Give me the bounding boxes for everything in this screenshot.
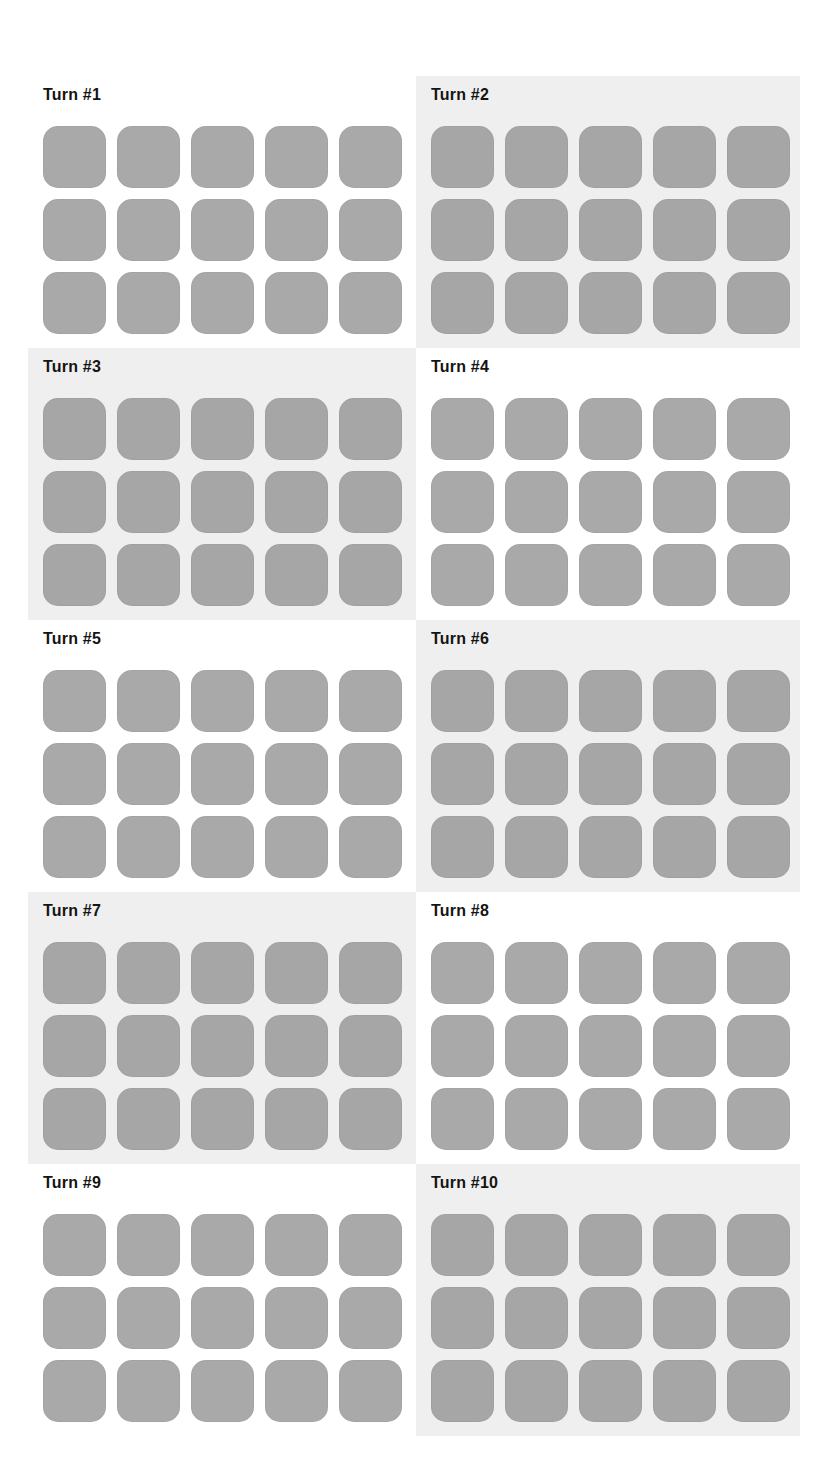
tile[interactable] bbox=[43, 1360, 106, 1422]
tile[interactable] bbox=[191, 471, 254, 533]
tile[interactable] bbox=[505, 471, 568, 533]
tile[interactable] bbox=[43, 1214, 106, 1276]
tile[interactable] bbox=[431, 1214, 494, 1276]
tile[interactable] bbox=[43, 743, 106, 805]
tile[interactable] bbox=[579, 1015, 642, 1077]
tile[interactable] bbox=[191, 942, 254, 1004]
tile[interactable] bbox=[505, 1214, 568, 1276]
tile[interactable] bbox=[117, 670, 180, 732]
tile[interactable] bbox=[727, 398, 790, 460]
tile[interactable] bbox=[339, 743, 402, 805]
tile[interactable] bbox=[339, 816, 402, 878]
tile[interactable] bbox=[653, 272, 716, 334]
tile[interactable] bbox=[191, 199, 254, 261]
tile[interactable] bbox=[579, 199, 642, 261]
tile[interactable] bbox=[265, 1214, 328, 1276]
tile[interactable] bbox=[727, 942, 790, 1004]
tile[interactable] bbox=[431, 1015, 494, 1077]
tile[interactable] bbox=[431, 1287, 494, 1349]
tile[interactable] bbox=[117, 272, 180, 334]
tile[interactable] bbox=[579, 272, 642, 334]
tile[interactable] bbox=[265, 1088, 328, 1150]
tile[interactable] bbox=[117, 1214, 180, 1276]
tile[interactable] bbox=[431, 1360, 494, 1422]
tile[interactable] bbox=[505, 1360, 568, 1422]
tile[interactable] bbox=[339, 471, 402, 533]
tile[interactable] bbox=[265, 1015, 328, 1077]
tile[interactable] bbox=[265, 544, 328, 606]
tile[interactable] bbox=[579, 942, 642, 1004]
tile[interactable] bbox=[579, 398, 642, 460]
tile[interactable] bbox=[727, 272, 790, 334]
tile[interactable] bbox=[339, 544, 402, 606]
tile[interactable] bbox=[727, 1214, 790, 1276]
tile[interactable] bbox=[117, 1015, 180, 1077]
tile[interactable] bbox=[653, 1360, 716, 1422]
tile[interactable] bbox=[431, 1088, 494, 1150]
tile[interactable] bbox=[117, 942, 180, 1004]
tile[interactable] bbox=[117, 199, 180, 261]
tile[interactable] bbox=[43, 544, 106, 606]
tile[interactable] bbox=[339, 942, 402, 1004]
tile[interactable] bbox=[579, 1360, 642, 1422]
tile[interactable] bbox=[265, 743, 328, 805]
tile[interactable] bbox=[653, 670, 716, 732]
tile[interactable] bbox=[265, 942, 328, 1004]
tile[interactable] bbox=[117, 126, 180, 188]
tile[interactable] bbox=[43, 942, 106, 1004]
tile[interactable] bbox=[653, 816, 716, 878]
tile[interactable] bbox=[505, 816, 568, 878]
tile[interactable] bbox=[431, 398, 494, 460]
tile[interactable] bbox=[43, 1088, 106, 1150]
tile[interactable] bbox=[117, 816, 180, 878]
tile[interactable] bbox=[579, 743, 642, 805]
tile[interactable] bbox=[579, 1214, 642, 1276]
tile[interactable] bbox=[265, 471, 328, 533]
tile[interactable] bbox=[265, 1360, 328, 1422]
tile[interactable] bbox=[579, 670, 642, 732]
tile[interactable] bbox=[339, 199, 402, 261]
tile[interactable] bbox=[43, 126, 106, 188]
tile[interactable] bbox=[431, 126, 494, 188]
tile[interactable] bbox=[505, 1088, 568, 1150]
tile[interactable] bbox=[653, 1015, 716, 1077]
tile[interactable] bbox=[579, 1287, 642, 1349]
tile[interactable] bbox=[117, 743, 180, 805]
tile[interactable] bbox=[117, 1287, 180, 1349]
tile[interactable] bbox=[505, 272, 568, 334]
tile[interactable] bbox=[653, 544, 716, 606]
tile[interactable] bbox=[339, 1214, 402, 1276]
tile[interactable] bbox=[339, 1360, 402, 1422]
tile[interactable] bbox=[653, 942, 716, 1004]
tile[interactable] bbox=[265, 272, 328, 334]
tile[interactable] bbox=[579, 126, 642, 188]
tile[interactable] bbox=[431, 670, 494, 732]
tile[interactable] bbox=[653, 1214, 716, 1276]
tile[interactable] bbox=[191, 670, 254, 732]
tile[interactable] bbox=[191, 816, 254, 878]
tile[interactable] bbox=[117, 1360, 180, 1422]
tile[interactable] bbox=[579, 544, 642, 606]
tile[interactable] bbox=[727, 1015, 790, 1077]
tile[interactable] bbox=[727, 816, 790, 878]
tile[interactable] bbox=[505, 1287, 568, 1349]
tile[interactable] bbox=[265, 816, 328, 878]
tile[interactable] bbox=[505, 1015, 568, 1077]
tile[interactable] bbox=[505, 670, 568, 732]
tile[interactable] bbox=[727, 126, 790, 188]
tile[interactable] bbox=[339, 670, 402, 732]
tile[interactable] bbox=[431, 743, 494, 805]
tile[interactable] bbox=[43, 1287, 106, 1349]
tile[interactable] bbox=[653, 126, 716, 188]
tile[interactable] bbox=[339, 272, 402, 334]
tile[interactable] bbox=[191, 743, 254, 805]
tile[interactable] bbox=[191, 1015, 254, 1077]
tile[interactable] bbox=[43, 670, 106, 732]
tile[interactable] bbox=[431, 199, 494, 261]
tile[interactable] bbox=[43, 816, 106, 878]
tile[interactable] bbox=[339, 398, 402, 460]
tile[interactable] bbox=[505, 942, 568, 1004]
tile[interactable] bbox=[653, 743, 716, 805]
tile[interactable] bbox=[505, 199, 568, 261]
tile[interactable] bbox=[191, 126, 254, 188]
